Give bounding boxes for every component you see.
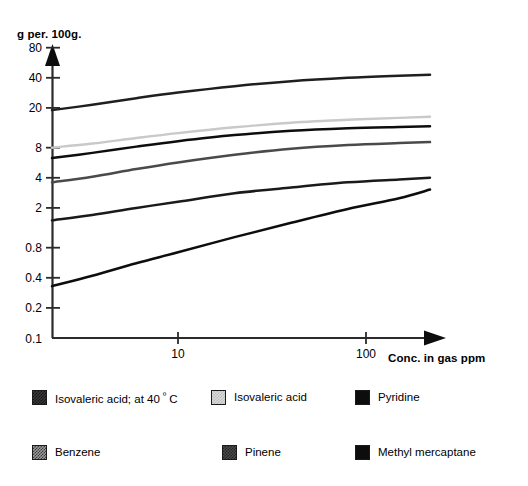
chart-series-group — [52, 75, 430, 287]
legend-swatch-pinene — [222, 445, 237, 460]
legend-label-pyridine: Pyridine — [378, 390, 420, 405]
y-tick-label: 0.8 — [25, 241, 42, 255]
y-tick-label: 2 — [35, 201, 42, 215]
chart-plot-area: 0.10.20.40.8248204080 10100 g per. 100g.… — [0, 0, 528, 486]
legend-swatch-pyridine — [355, 390, 370, 405]
y-tick-label: 0.4 — [25, 271, 42, 285]
legend-item-isovaleric-acid-40c[interactable]: Isovaleric acid; at 40 º C — [32, 386, 178, 408]
legend-item-isovaleric-acid[interactable]: Isovaleric acid — [211, 386, 307, 408]
y-tick-label: 0.1 — [25, 332, 42, 346]
series-line-3 — [52, 142, 430, 182]
legend-label-pinene: Pinene — [245, 445, 281, 460]
y-tick-label: 80 — [29, 41, 43, 55]
series-line-4 — [52, 178, 430, 221]
legend-label-methyl-mercaptane: Methyl mercaptane — [378, 445, 476, 460]
series-line-5 — [52, 190, 430, 287]
legend-item-pyridine[interactable]: Pyridine — [355, 386, 420, 408]
legend-swatch-benzene — [32, 445, 47, 460]
legend-row-2: Benzene Pinene Methyl mercaptane — [0, 441, 528, 463]
y-tick-label: 40 — [29, 71, 43, 85]
series-line-0 — [52, 75, 430, 110]
legend-label-isovaleric-acid: Isovaleric acid — [234, 390, 307, 405]
legend-item-pinene[interactable]: Pinene — [222, 441, 281, 463]
x-axis-title: Conc. in gas ppm — [388, 352, 485, 364]
legend-item-benzene[interactable]: Benzene — [32, 441, 100, 463]
legend-label-benzene: Benzene — [55, 445, 100, 460]
x-tick-label: 10 — [171, 347, 185, 361]
legend-swatch-methyl-mercaptane — [355, 445, 370, 460]
legend-item-methyl-mercaptane[interactable]: Methyl mercaptane — [355, 441, 476, 463]
legend-swatch-isovaleric-acid-40c — [32, 390, 47, 405]
y-axis-title: g per. 100g. — [17, 28, 81, 40]
chart-container: 0.10.20.40.8248204080 10100 g per. 100g.… — [0, 0, 528, 486]
y-tick-label: 4 — [35, 171, 42, 185]
x-axis-arrow-icon — [424, 331, 446, 346]
x-axis-tick-labels: 10100 — [171, 347, 376, 361]
y-tick-label: 20 — [29, 101, 43, 115]
legend-row-1: Isovaleric acid; at 40 º C Isovaleric ac… — [0, 386, 528, 408]
y-tick-label: 0.2 — [25, 301, 42, 315]
x-tick-label: 100 — [356, 347, 376, 361]
legend-swatch-isovaleric-acid — [211, 390, 226, 405]
legend-label-isovaleric-acid-40c: Isovaleric acid; at 40 º C — [55, 388, 178, 407]
y-axis-tick-labels: 0.10.20.40.8248204080 — [25, 41, 42, 345]
y-tick-label: 8 — [35, 141, 42, 155]
